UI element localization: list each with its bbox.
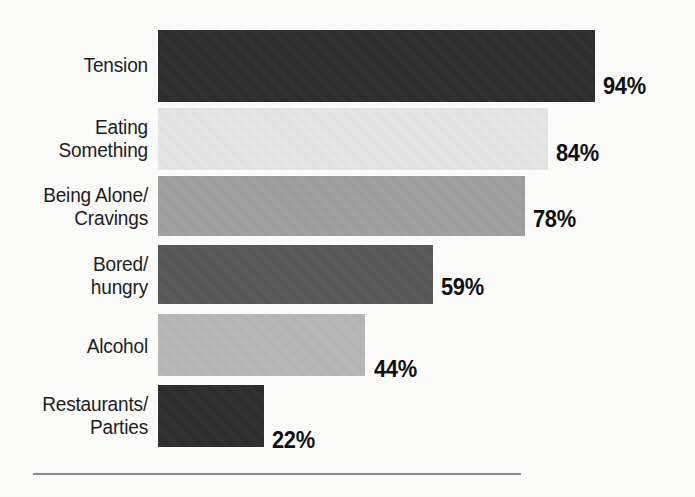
bar-category-label-line1: Being Alone/ bbox=[43, 183, 148, 206]
bar-rect bbox=[158, 245, 433, 304]
bar-value-label: 94% bbox=[603, 73, 646, 100]
bar-rect bbox=[158, 314, 365, 376]
footer-divider bbox=[33, 473, 521, 475]
bar-value-label: 22% bbox=[272, 427, 315, 454]
bar-rect bbox=[158, 385, 264, 447]
bar-value-label: 78% bbox=[533, 206, 576, 233]
bar-category-label: Restaurants/ Parties bbox=[0, 392, 148, 438]
bar-category-label-line1: Restaurants/ bbox=[42, 392, 148, 415]
bar-category-label: Eating Something bbox=[0, 115, 148, 161]
bar-category-label-line1: Bored/ bbox=[93, 252, 148, 275]
bar-category-label-line1: Eating bbox=[95, 115, 148, 138]
bar-category-label: Tension bbox=[0, 53, 148, 76]
bar-category-label: Alcohol bbox=[0, 334, 148, 357]
bar-value-label: 44% bbox=[374, 356, 417, 383]
bar-category-label-line2: Cravings bbox=[0, 206, 148, 229]
bar-category-label-line1: Alcohol bbox=[87, 334, 148, 357]
bar-category-label: Bored/ hungry bbox=[0, 252, 148, 298]
bar-rect bbox=[158, 108, 548, 170]
bar-value-label: 84% bbox=[556, 140, 599, 167]
bar-category-label-line2: Parties bbox=[0, 415, 148, 438]
bar-category-label-line1: Tension bbox=[84, 53, 148, 76]
bar-chart: Tension 94% Eating Something 84% Being A… bbox=[0, 0, 695, 497]
bar-category-label-line2: hungry bbox=[0, 275, 148, 298]
bar-rect bbox=[158, 176, 525, 236]
bar-category-label-line2: Something bbox=[0, 138, 148, 161]
bar-rect bbox=[158, 30, 595, 102]
bar-category-label: Being Alone/ Cravings bbox=[0, 183, 148, 229]
bar-value-label: 59% bbox=[441, 274, 484, 301]
